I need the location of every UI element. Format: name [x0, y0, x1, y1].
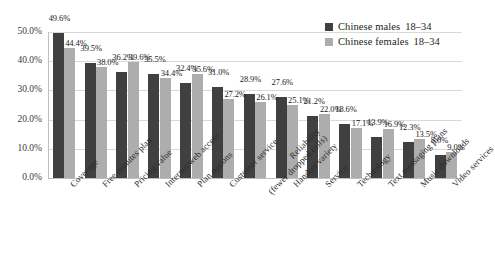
value-label: 27.2% — [224, 89, 245, 99]
bar-chinese-females-technology — [351, 128, 362, 178]
y-axis-tick-label: 20.0% — [0, 114, 42, 124]
y-axis-line — [48, 32, 49, 179]
legend-age-chinese-males: 18–34 — [405, 21, 431, 32]
y-axis-tick-label: 10.0% — [0, 143, 42, 153]
gridline — [48, 90, 462, 91]
value-label: 49.6% — [49, 13, 70, 23]
legend-swatch-chinese-males — [325, 23, 333, 31]
y-axis-tick-label: 0.0% — [0, 172, 42, 182]
y-axis-tick-label: 40.0% — [0, 55, 42, 65]
value-label: 28.9% — [240, 74, 261, 84]
value-label: 27.6% — [272, 77, 293, 87]
y-axis-tick-label: 30.0% — [0, 84, 42, 94]
bar-chinese-males-coverage — [53, 33, 64, 178]
bar-chinese-females-reliability-fewer-dropped-calls — [255, 102, 266, 178]
legend-label-chinese-males: Chinese males — [338, 21, 400, 32]
value-label: 31.0% — [208, 67, 229, 77]
y-axis-tick-label: 50.0% — [0, 26, 42, 36]
value-label: 18.6% — [335, 104, 356, 114]
value-label: 39.5% — [81, 43, 102, 53]
value-label: 35.5% — [144, 54, 165, 64]
value-label: 26.1% — [256, 92, 277, 102]
bar-chinese-females-coverage — [64, 48, 75, 178]
gridline — [48, 32, 462, 33]
